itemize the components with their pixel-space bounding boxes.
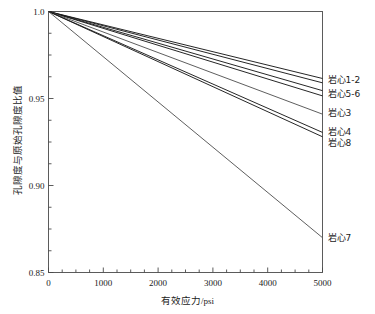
chart-figure: 0.850.900.951.0 010002000300040005000 岩心… [0, 0, 375, 314]
series-line [49, 12, 323, 96]
x-tick-label: 2000 [133, 278, 183, 288]
data-series-lines [49, 12, 323, 238]
series-line [49, 12, 323, 91]
series-line [49, 12, 323, 115]
series-label: 岩心4 [328, 127, 352, 137]
x-tick-label: 0 [24, 278, 74, 288]
x-tick-label: 3000 [188, 278, 238, 288]
x-axis-unit: /psi [201, 296, 214, 306]
y-tick-label: 0.85 [3, 268, 45, 278]
chart-plot-svg [0, 0, 375, 314]
x-tick-label: 4000 [243, 278, 293, 288]
series-label: 岩心7 [328, 233, 352, 243]
series-label: 岩心5-6 [328, 89, 361, 99]
series-label: 岩心1-2 [328, 75, 361, 85]
y-axis-title: 孔隙度与原始孔隙度比值 [10, 65, 24, 215]
x-tick-label: 5000 [298, 278, 348, 288]
series-label: 岩心3 [328, 108, 352, 118]
x-tick-label: 1000 [78, 278, 128, 288]
series-label: 岩心8 [328, 138, 352, 148]
y-tick-label: 1.0 [3, 7, 45, 17]
x-axis-title-text: 有效应力 [161, 295, 201, 306]
series-line [49, 12, 323, 137]
x-axis-title: 有效应力/psi [0, 293, 375, 307]
